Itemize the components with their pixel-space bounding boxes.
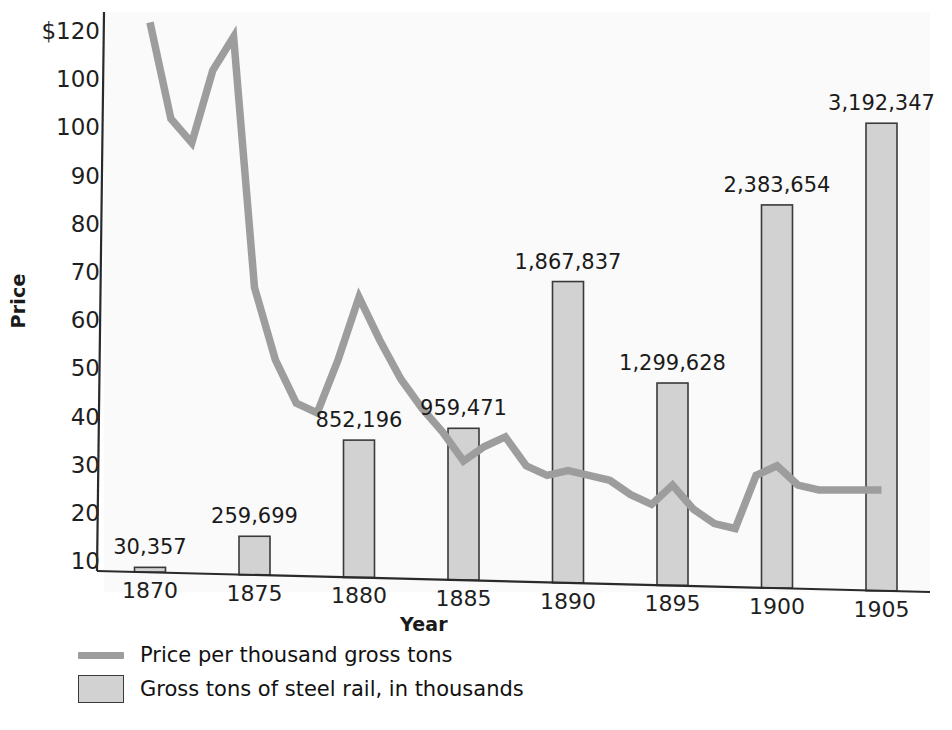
line-swatch-icon: [70, 652, 132, 659]
x-tick-label: 1870: [102, 580, 198, 602]
x-tick-label: 1880: [311, 585, 407, 607]
x-tick-label: 1905: [834, 599, 930, 621]
chart-legend: Price per thousand gross tons Gross tons…: [70, 638, 630, 706]
x-tick-label: 1885: [416, 588, 512, 610]
legend-item-price: Price per thousand gross tons: [70, 638, 630, 672]
legend-item-tons: Gross tons of steel rail, in thousands: [70, 672, 630, 706]
x-tick-label: 1895: [625, 593, 721, 615]
x-axis-title: Year: [400, 613, 448, 635]
legend-label-tons: Gross tons of steel rail, in thousands: [132, 679, 524, 700]
x-tick-label: 1900: [729, 596, 825, 618]
box-swatch-icon: [70, 675, 132, 703]
x-tick-label: 1875: [207, 583, 303, 605]
x-tick-label: 1890: [520, 591, 616, 613]
chart-container: Price $120100100908070605040302010 30,35…: [0, 0, 952, 730]
x-axis-tick-labels: 18701875188018851890189519001905: [0, 0, 952, 730]
legend-label-price: Price per thousand gross tons: [132, 645, 453, 666]
